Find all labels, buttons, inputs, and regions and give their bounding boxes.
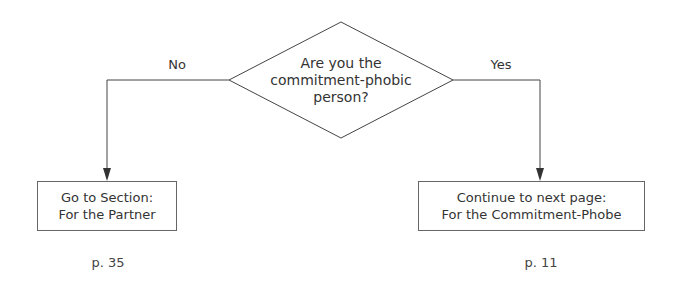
question-line: person? [313,89,368,106]
yes-branch-connector [453,80,540,176]
question-line: commitment-phobic [270,72,411,89]
yes-arrowhead-icon [536,168,544,181]
decision-question: Are you the commitment-phobic person? [229,22,453,138]
yes-label: Yes [486,57,516,72]
page-ref-partner: p. 35 [78,255,138,270]
box-line: Continue to next page: [457,189,607,206]
box-line: For the Partner [58,206,155,223]
no-label: No [165,57,189,72]
box-line: For the Commitment-Phobe [442,206,622,223]
commitment-phobe-section-box: Continue to next page: For the Commitmen… [418,181,645,231]
no-branch-connector [107,80,229,176]
question-line: Are you the [300,55,381,72]
no-arrowhead-icon [103,168,111,181]
partner-section-box: Go to Section: For the Partner [37,181,177,231]
box-line: Go to Section: [61,189,153,206]
page-ref-commitment-phobe: p. 11 [511,255,571,270]
